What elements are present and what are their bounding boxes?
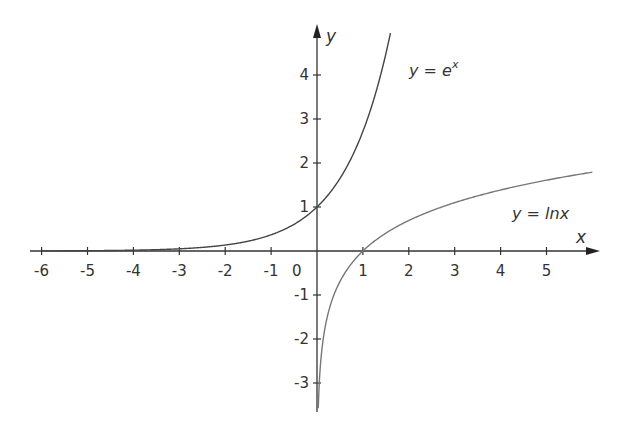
origin-label: 0 (292, 262, 302, 280)
y-tick-label: 3 (299, 110, 309, 128)
function-chart: x y 0 -6-5-4-3-2-112345 -3-2-11234 y = e… (0, 0, 620, 436)
x-tick-label: -2 (218, 262, 233, 280)
x-axis-label: x (575, 227, 587, 247)
ln-curve-label: y = lnx (511, 204, 570, 223)
x-tick-label: -5 (80, 262, 95, 280)
x-tick-label: -3 (172, 262, 187, 280)
ln-label-prefix: y = (511, 204, 545, 223)
x-tick-label: -6 (34, 262, 49, 280)
exp-label-sup: x (451, 58, 459, 71)
x-axis-arrow-icon (586, 247, 600, 255)
exp-curve (42, 33, 391, 251)
x-tick-label: 1 (358, 262, 368, 280)
exp-curve-label: y = ex (408, 58, 459, 80)
ln-label-fn: lnx (545, 204, 570, 223)
x-tick-label: -4 (126, 262, 141, 280)
y-tick-label: -3 (294, 374, 309, 392)
curve-labels: y = ex y = lnx (408, 58, 570, 223)
x-tick-label: 3 (450, 262, 460, 280)
y-tick-label: 4 (299, 66, 309, 84)
x-tick-label: -1 (264, 262, 279, 280)
y-tick-label: -1 (294, 286, 309, 304)
exp-label-text: y = e (408, 61, 452, 80)
y-tick-label: 1 (299, 198, 309, 216)
x-tick-label: 4 (496, 262, 506, 280)
y-axis-label: y (325, 26, 337, 46)
y-axis-arrow-icon (313, 24, 321, 38)
x-tick-label: 2 (404, 262, 414, 280)
x-tick-label: 5 (542, 262, 552, 280)
y-tick-label: -2 (294, 330, 309, 348)
y-tick-label: 2 (299, 154, 309, 172)
